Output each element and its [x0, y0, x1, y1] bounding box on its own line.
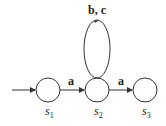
state-label-s2: s2 [94, 104, 103, 120]
self-loop-arrowhead [94, 20, 99, 23]
state-s3 [133, 78, 157, 102]
state-label-s1: s1 [45, 104, 54, 120]
label-s2-s3: a [118, 74, 124, 88]
automaton-diagram: b, c a a s1 s2 s3 [0, 0, 166, 126]
state-s2 [85, 78, 109, 102]
state-s1 [36, 78, 60, 102]
label-loop: b, c [88, 3, 107, 17]
self-loop-s2 [84, 20, 110, 78]
label-s1-s2: a [68, 74, 74, 88]
state-label-s3: s3 [142, 104, 151, 120]
